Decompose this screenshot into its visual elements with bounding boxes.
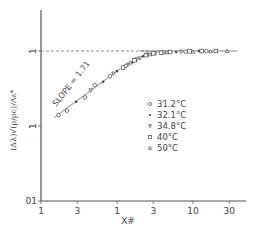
legend-label: 32.1°C xyxy=(157,110,186,120)
square-marker xyxy=(151,52,155,56)
legend-label: 31.2°C xyxy=(157,99,186,109)
y-tick-label: 1 xyxy=(28,48,38,54)
square-marker xyxy=(200,49,204,53)
triangle-down-marker xyxy=(179,50,183,53)
triangle-up-marker xyxy=(191,50,195,53)
circle-marker xyxy=(205,49,209,53)
x-tick-label: 1 xyxy=(38,206,44,216)
square-marker xyxy=(188,50,192,54)
circle-marker xyxy=(57,113,61,117)
x-tick-label: 3 xyxy=(150,206,156,216)
circle-marker xyxy=(184,50,188,54)
data-points xyxy=(57,49,229,117)
triangle-up-marker xyxy=(225,49,229,52)
x-tick-label: 1 xyxy=(114,206,120,216)
dot-marker xyxy=(175,51,178,54)
dot-marker xyxy=(75,101,78,104)
chart: 131310300111 31.2°C32.1°C34.8°C40°C50°C … xyxy=(0,0,263,229)
circle-marker xyxy=(83,96,87,100)
circle-marker xyxy=(93,83,97,87)
dot-marker xyxy=(116,70,119,73)
triangle-down-marker xyxy=(148,125,151,128)
x-tick-label: 3 xyxy=(74,206,80,216)
square-marker xyxy=(144,53,148,57)
legend-label: 50°C xyxy=(157,143,178,153)
triangle-up-marker xyxy=(209,50,213,53)
x-axis-label: X# xyxy=(121,216,135,226)
x-tick-label: 10 xyxy=(187,206,199,216)
y-axis-label: (Δλ)√(ρ/ρc)/Λε* xyxy=(9,89,18,151)
x-tick-label: 30 xyxy=(224,206,236,216)
circle-marker xyxy=(65,109,69,113)
square-marker xyxy=(168,50,172,54)
dot-marker xyxy=(102,80,105,83)
dot-marker xyxy=(149,114,151,116)
triangle-up-marker xyxy=(148,146,151,149)
triangle-down-marker xyxy=(138,57,142,60)
square-marker xyxy=(159,51,163,55)
legend-label: 34.8°C xyxy=(157,121,186,131)
circle-marker xyxy=(148,102,151,105)
square-marker xyxy=(148,135,151,138)
square-marker xyxy=(214,49,218,53)
circle-marker xyxy=(108,74,112,78)
square-marker xyxy=(121,66,125,70)
slope-annotation: SLOPE = 1.71 xyxy=(51,59,92,108)
legend: 31.2°C32.1°C34.8°C40°C50°C xyxy=(148,99,186,153)
y-tick-label: 01 xyxy=(26,196,37,206)
square-marker xyxy=(133,59,137,63)
legend-label: 40°C xyxy=(157,132,178,142)
y-tick-label: 1 xyxy=(28,123,38,129)
